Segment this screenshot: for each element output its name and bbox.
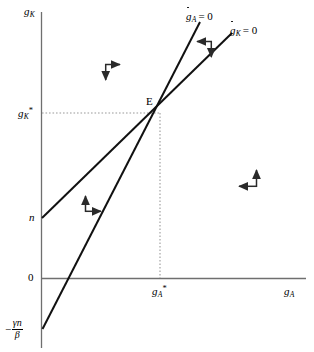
y-axis-label-sub: K (30, 10, 35, 19)
x-tick-label-ga-star: gA* (152, 284, 167, 298)
curve-label-nullcline-gk: gK= 0 (230, 25, 257, 38)
curve-label-ga-eq: = 0 (198, 10, 212, 22)
y-axis-label: gK (24, 6, 35, 19)
phase-diagram-figure: gK gK* n 0 − γn β gA gA* E gA= 0 gK= 0 (0, 0, 314, 352)
x-axis-label-base: g (284, 285, 290, 297)
x-axis-label-sub: A (290, 290, 295, 299)
x-tick-ga-base: g (152, 285, 158, 297)
phase-arrows-lower-left (85, 196, 101, 212)
x-tick-ga-star: * (162, 283, 166, 293)
nullcline-ga-line (43, 22, 201, 329)
curve-label-nullcline-ga: gA= 0 (186, 11, 213, 24)
curve-label-ga-sub: A (192, 15, 197, 24)
y-tick-label-n: n (29, 212, 35, 223)
y-tick-label-gk-star: gK* (18, 106, 33, 120)
phase-arrows-upper-left (105, 64, 120, 80)
origin-label-text: 0 (28, 271, 34, 283)
fraction-denominator: β (12, 329, 23, 341)
x-axis-label: gA (284, 286, 294, 299)
equilibrium-point-text: E (146, 95, 153, 107)
nullcline-gk-line (42, 33, 232, 218)
plot-canvas (0, 0, 314, 352)
origin-label: 0 (28, 272, 34, 283)
y-tick-n-text: n (29, 211, 35, 223)
curve-label-gk-eq: = 0 (243, 24, 257, 36)
curve-label-gk-sub: K (236, 29, 241, 38)
equilibrium-point-label: E (146, 96, 153, 107)
curve-label-gk-base: g (230, 24, 236, 36)
derivative-dot-icon (231, 21, 233, 23)
gk-dot-accent-group: g (230, 25, 236, 36)
y-tick-label-neg-gamma-n-beta: − γn β (5, 318, 23, 340)
ga-dot-accent-group: g (186, 11, 192, 22)
y-axis-label-base: g (24, 5, 30, 17)
fraction-numerator: γn (12, 318, 23, 328)
neg-sign: − (5, 324, 11, 335)
derivative-dot-icon (187, 7, 189, 9)
phase-arrows-right (239, 170, 257, 187)
y-tick-gk-star: * (29, 105, 33, 115)
curve-label-ga-base: g (186, 10, 192, 22)
fraction-gamma-n-over-beta: γn β (12, 318, 23, 340)
y-tick-gk-base: g (18, 107, 24, 119)
